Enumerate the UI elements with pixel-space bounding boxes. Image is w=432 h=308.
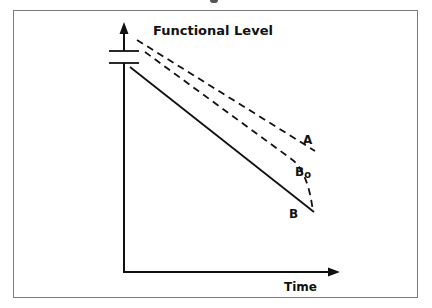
x-axis-arrow-icon: [328, 268, 340, 277]
curve-b0: [145, 52, 313, 212]
curve-b-label: B: [289, 207, 298, 221]
y-axis-arrow-icon: [120, 22, 129, 34]
curve-b: [130, 67, 314, 212]
x-axis-label: Time: [284, 280, 317, 294]
curve-b0-label: Bo: [295, 165, 311, 180]
x-axis: [123, 268, 340, 277]
y-axis-label: Functional Level: [153, 23, 273, 38]
functional-level-diagram: Functional Level Time A Bo B: [0, 0, 432, 308]
y-axis: [109, 22, 139, 273]
curve-a: [137, 40, 315, 151]
curve-a-label: A: [303, 133, 313, 147]
